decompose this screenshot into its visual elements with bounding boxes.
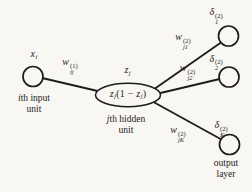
math-sub: j <box>129 69 131 76</box>
caption-line: output <box>214 158 238 169</box>
input-activation-label: xi <box>31 49 38 60</box>
math-sub: 2 <box>215 65 218 71</box>
math-sub: ij <box>70 69 74 75</box>
caption-line: unit <box>107 125 145 136</box>
output-node-1-circle <box>219 26 239 46</box>
supsub-stack: (2)j2 <box>188 69 196 81</box>
hidden-activation-label: zj <box>124 65 130 76</box>
expression-close: ) <box>143 88 147 99</box>
math-base: w <box>170 124 177 135</box>
math-base: w <box>175 31 182 42</box>
input-caption: ith input unit <box>18 93 50 115</box>
caption-line: ith input <box>18 93 50 104</box>
math-sub: i <box>36 53 38 60</box>
delta-1-label: δ(2)1 <box>209 7 222 25</box>
supsub-stack: (2)1 <box>215 13 223 25</box>
output-layer-caption: output layer <box>214 158 238 180</box>
hidden-derivative-expression: zj(1 − zj) <box>110 89 147 100</box>
hidden-caption: jth hidden unit <box>107 114 145 136</box>
math-base: δ <box>209 6 214 17</box>
supsub-stack: (2)j1 <box>183 38 191 50</box>
expression-middle: (1 − <box>116 88 136 99</box>
math-base: w <box>180 62 187 73</box>
math-base: δ <box>214 119 219 130</box>
supsub-stack: (2)K <box>220 126 228 138</box>
math-sub: j2 <box>188 75 193 81</box>
weight-hidden-out1-label: w(2)j1 <box>175 32 190 50</box>
input-node-circle <box>23 67 43 87</box>
caption-rest: th hidden <box>110 114 146 124</box>
edge-input-to-hidden <box>40 78 104 93</box>
math-base: z <box>110 88 114 99</box>
neural-network-figure: xi w(1)ij zj zj(1 − zj) w(2)j1 w(2)j2 w(… <box>0 0 252 192</box>
weight-input-hidden-label: w(1)ij <box>62 57 77 75</box>
caption-line: jth hidden <box>107 114 145 125</box>
supsub-stack: (2)jK <box>178 131 186 143</box>
supsub-stack: (1)ij <box>70 63 78 75</box>
math-base: w <box>62 56 69 67</box>
math-base: x <box>31 48 35 59</box>
weight-hidden-outK-label: w(2)jK <box>170 125 185 143</box>
caption-line: layer <box>214 169 238 180</box>
supsub-stack: (2)2 <box>215 59 223 71</box>
math-sub: K <box>220 132 224 138</box>
math-sub: j1 <box>183 44 188 50</box>
math-base: δ <box>209 53 214 64</box>
math-sub: 1 <box>215 19 218 25</box>
math-sub: jK <box>178 137 184 143</box>
delta-K-label: δ(2)K <box>214 120 227 138</box>
caption-rest: th input <box>21 93 50 103</box>
caption-line: unit <box>18 104 50 115</box>
delta-2-label: δ(2)2 <box>209 54 222 72</box>
weight-hidden-out2-label: w(2)j2 <box>180 63 195 81</box>
